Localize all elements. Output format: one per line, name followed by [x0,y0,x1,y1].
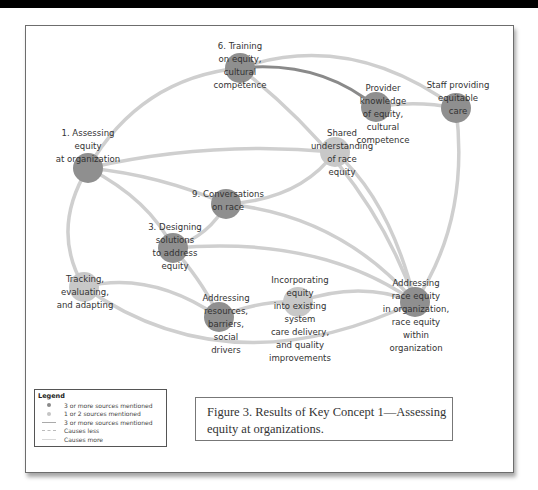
node-label-provider: Providerknowledgeof equity,culturalcompe… [357,82,410,145]
node-label-tracking: Tracking,evaluating,and adapting [57,273,114,310]
node-label-line: competence [214,79,267,90]
node-label-line: in organization, [383,303,449,314]
node-label-line: system [285,313,316,324]
node-label-line: of equity, [363,108,404,119]
node-label-assessing: 1. Assessingequityat organization [56,127,120,164]
node-label-line: of race [327,153,357,164]
legend-label: 1 or 2 sources mentioned [64,410,141,417]
node-label-line: knowledge [360,95,406,106]
node-label-line: race equity [392,290,440,301]
legend-item-light-node: 1 or 2 sources mentioned [35,410,166,419]
solid-line-icon [42,422,56,423]
node-label-line: equity [329,166,356,177]
figure-caption: Figure 3. Results of Key Concept 1—Asses… [195,397,453,441]
node-label-line: 3. Designing [148,221,202,232]
legend-label: 3 or more sources mentioned [64,419,153,426]
node-label-line: equity [75,140,102,151]
legend-label: Causes more [64,436,103,443]
node-label-line: Addressing [392,277,439,288]
legend-box: Legend 3 or more sources mentioned 1 or … [34,389,167,447]
light-line-icon [42,439,56,440]
node-label-line: equitable [438,92,478,103]
node-label-line: race equity [392,316,440,327]
node-label-line: Tracking, [65,273,104,284]
legend-item-solid-line: 3 or more sources mentioned [35,418,166,427]
node-label-line: Shared [327,127,357,138]
node-label-line: Staff providing [427,79,490,90]
edge-assessing-to-tracking [68,168,88,287]
node-label-line: social [214,331,238,342]
node-label-line: 9. Conversations [192,188,264,199]
node-label-line: evaluating, [61,286,109,297]
node-label-line: on equity, [219,53,262,64]
legend-item-dark-node: 3 or more sources mentioned [35,401,166,410]
node-label-line: and adapting [57,299,114,310]
node-label-line: into existing [274,300,327,311]
legend-title: Legend [38,392,166,400]
node-label-line: care [449,105,468,116]
node-label-line: improvements [269,352,331,363]
edge-training-to-staff [240,56,456,108]
node-label-line: Provider [365,82,401,93]
node-label-line: within [403,329,429,340]
dashed-line-icon [42,430,56,431]
legend-item-causes-less: Causes less [35,427,166,436]
node-label-line: barriers, [208,318,244,329]
node-label-resources: Addressingresources,barriers,socialdrive… [202,292,249,355]
node-label-line: on race [212,201,244,212]
node-label-line: understanding [311,140,373,151]
node-label-line: cultural [224,66,256,77]
node-label-line: to address [153,247,198,258]
node-label-line: equity [287,287,314,298]
node-label-line: equity [162,260,189,271]
node-label-line: Incorporating [271,274,328,285]
node-label-line: drivers [211,344,241,355]
node-label-line: resources, [204,305,248,316]
edge-staff-to-race_equity [415,108,459,302]
node-label-line: 1. Assessing [61,127,114,138]
node-label-line: organization [389,342,442,353]
legend-label: 3 or more sources mentioned [64,402,153,409]
edge-assessing-to-shared [88,148,335,168]
node-label-line: Addressing [202,292,249,303]
node-label-line: solutions [156,234,195,245]
node-label-line: and quality [276,339,324,350]
node-label-staff: Staff providingequitablecare [427,79,490,116]
node-label-line: 6. Training [218,40,262,51]
node-label-line: at organization [56,153,120,164]
node-label-incorporating: Incorporatingequityinto existingsystemca… [269,274,331,363]
dark-dot-icon [47,403,51,407]
light-dot-icon [47,412,51,416]
node-label-line: cultural [367,121,399,132]
legend-label: Causes less [64,427,99,434]
legend-item-causes-more: Causes more [35,435,166,444]
node-label-line: care delivery, [271,326,329,337]
